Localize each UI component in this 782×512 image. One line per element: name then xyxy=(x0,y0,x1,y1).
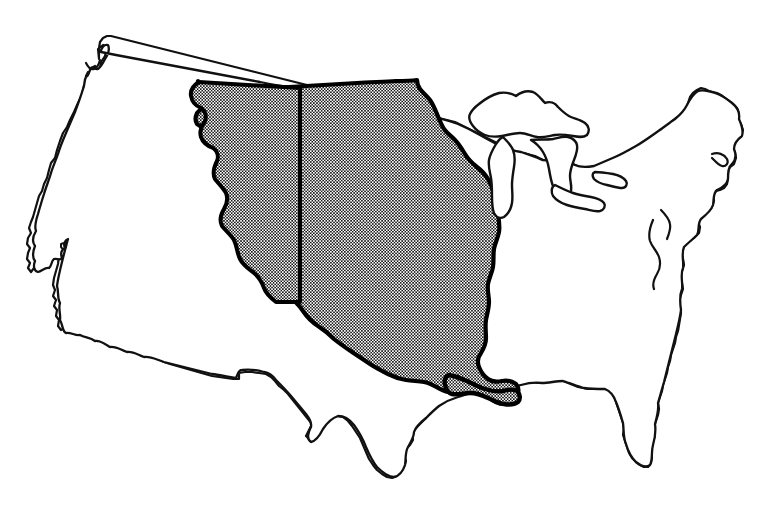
us-map-svg xyxy=(0,0,782,512)
map-figure: Louisiana Purchase territory highlighted xyxy=(0,0,782,512)
lake-michigan xyxy=(489,137,515,218)
